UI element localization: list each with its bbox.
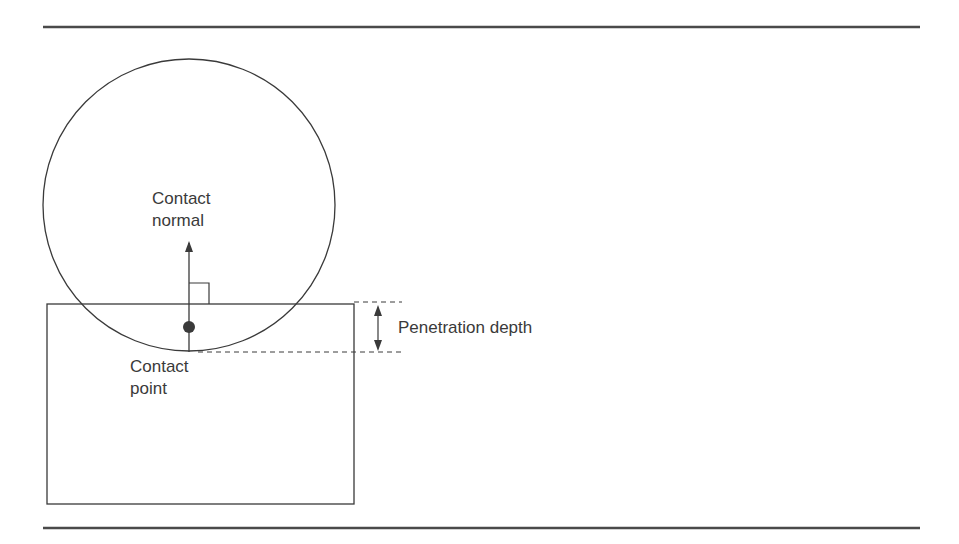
penetration-down-arrowhead-icon: [374, 340, 382, 351]
contact-normal-label: Contact normal: [152, 188, 211, 232]
contact-point-label-line1: Contact: [130, 356, 189, 378]
penetration-up-arrowhead-icon: [374, 305, 382, 316]
contact-point-dot: [183, 321, 195, 333]
box-shape: [47, 304, 354, 504]
contact-normal-label-line2: normal: [152, 210, 211, 232]
diagram-canvas: [0, 0, 959, 544]
contact-point-label-line2: point: [130, 378, 189, 400]
penetration-depth-label: Penetration depth: [398, 317, 532, 339]
contact-point-label: Contact point: [130, 356, 189, 400]
right-angle-marker: [189, 283, 209, 304]
contact-normal-arrowhead-icon: [185, 241, 193, 252]
contact-normal-label-line1: Contact: [152, 188, 211, 210]
